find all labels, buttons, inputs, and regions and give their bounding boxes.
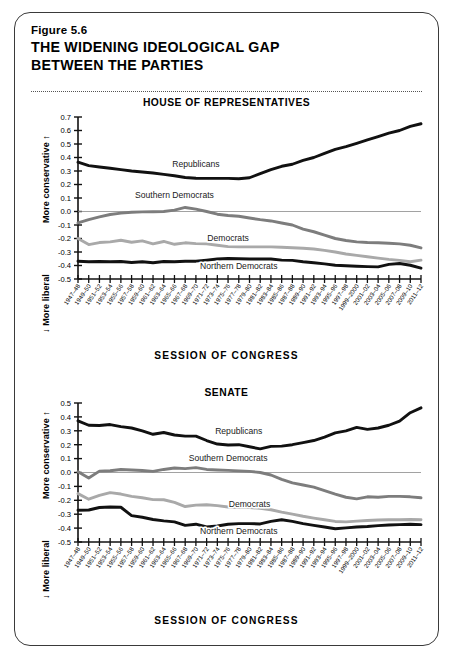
y-tick-label: -0.1 (58, 221, 71, 230)
y-tick-label: -0.2 (58, 234, 71, 243)
y-tick-label: -0.3 (58, 510, 71, 519)
series-line-republicans (78, 124, 421, 179)
series-label-northern-democrats: Northern Democrats (200, 526, 277, 536)
series-label-democrats: Democrats (207, 233, 249, 243)
y-tick-label: -0.5 (58, 538, 71, 547)
chart-title-house: HOUSE OF REPRESENTATIVES (15, 97, 438, 108)
y-tick-label: 0.0 (60, 207, 71, 216)
y-tick-label: 0.3 (60, 427, 71, 436)
x-axis-title-house: SESSION OF CONGRESS (15, 350, 438, 361)
y-tick-label: -0.4 (58, 524, 71, 533)
series-label-republicans: Republicans (215, 426, 262, 436)
y-tick-label: 0.4 (60, 153, 71, 162)
y-tick-label: 0.5 (60, 399, 71, 408)
chart-svg-senate: -0.5-0.4-0.3-0.2-0.10.00.10.20.30.40.519… (15, 397, 440, 612)
chart-panel-senate: SENATE More conservative ↑ ↓ More libera… (15, 387, 438, 645)
y-tick-label: 0.2 (60, 180, 71, 189)
y-tick-label: 0.1 (60, 194, 71, 203)
y-tick-label: -0.1 (58, 482, 71, 491)
y-tick-label: 0.2 (60, 441, 71, 450)
series-label-northern-democrats: Northern Democrats (200, 261, 277, 271)
plot-area-senate: -0.5-0.4-0.3-0.2-0.10.00.10.20.30.40.519… (15, 397, 438, 612)
y-tick-label: 0.5 (60, 140, 71, 149)
figure-card: Figure 5.6 THE WIDENING IDEOLOGICAL GAP … (14, 12, 439, 646)
figure-title-line-1: THE WIDENING IDEOLOGICAL GAP (31, 39, 422, 56)
chart-svg-house: -0.5-0.4-0.3-0.2-0.10.00.10.20.30.40.50.… (15, 111, 440, 349)
x-axis-title-senate: SESSION OF CONGRESS (15, 615, 438, 626)
y-tick-label: -0.3 (58, 248, 71, 257)
y-tick-label: 0.1 (60, 454, 71, 463)
y-tick-label: 0.7 (60, 113, 71, 122)
y-tick-label: -0.2 (58, 496, 71, 505)
figure-number: Figure 5.6 (31, 23, 422, 38)
series-label-southern-democrats: Southern Democrats (189, 453, 268, 463)
y-tick-label: -0.5 (58, 275, 71, 284)
y-tick-label: 0.0 (60, 468, 71, 477)
y-tick-label: 0.4 (60, 413, 71, 422)
plot-area-house: -0.5-0.4-0.3-0.2-0.10.00.10.20.30.40.50.… (15, 111, 438, 349)
y-tick-label: 0.6 (60, 126, 71, 135)
y-tick-label: -0.4 (58, 261, 71, 270)
series-label-republicans: Republicans (172, 159, 219, 169)
series-label-democrats: Democrats (229, 499, 271, 509)
figure-header: Figure 5.6 THE WIDENING IDEOLOGICAL GAP … (31, 23, 422, 74)
y-tick-label: 0.3 (60, 167, 71, 176)
series-label-southern-democrats: Southern Democrats (135, 190, 214, 200)
chart-panel-house: HOUSE OF REPRESENTATIVES More conservati… (15, 97, 438, 387)
figure-title-line-2: BETWEEN THE PARTIES (31, 57, 422, 74)
header-divider (31, 91, 422, 92)
